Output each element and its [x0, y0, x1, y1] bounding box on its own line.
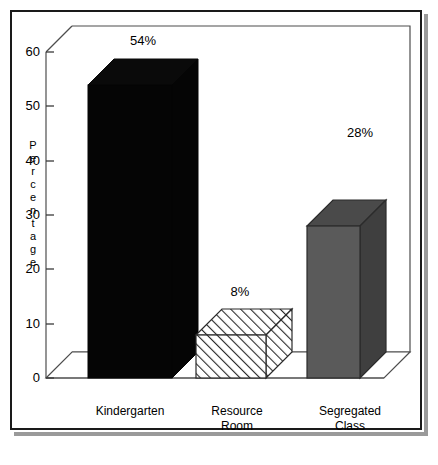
bar-kindergarten-front — [88, 85, 172, 378]
y-tick-label-10: 10 — [10, 316, 40, 331]
bar-resource-room-front — [196, 335, 266, 378]
bar-kindergarten-side — [172, 59, 198, 378]
category-label-line: Segregated — [292, 404, 408, 419]
y-axis-title-letter: e — [26, 256, 40, 269]
category-label-line: Resource — [182, 404, 292, 419]
category-label-segregated-class: Segregated Class — [292, 404, 408, 434]
bar-segregated-class-front — [307, 226, 360, 378]
y-axis-title-letter: r — [26, 165, 40, 178]
y-tick-label-0: 0 — [10, 370, 40, 385]
y-axis-title: P e r c e n t a g e — [26, 139, 40, 269]
category-label-line: Room — [182, 419, 292, 434]
data-label-resource-room: 8% — [215, 284, 265, 299]
y-axis-title-letter: n — [26, 204, 40, 217]
chart-screenshot: 60 50 40 30 20 10 0 P e r c e n t a g e … — [0, 0, 438, 465]
y-axis-title-letter: a — [26, 230, 40, 243]
data-label-kindergarten: 54% — [113, 33, 173, 48]
category-label-resource-room: Resource Room — [182, 404, 292, 434]
bar-chart-plot — [0, 0, 438, 465]
y-axis-title-letter: e — [26, 191, 40, 204]
bar-segregated-class[interactable] — [307, 200, 386, 378]
y-axis-title-letter: c — [26, 178, 40, 191]
y-axis-ticks — [46, 52, 54, 378]
y-axis-title-letter: g — [26, 243, 40, 256]
bar-segregated-class-side — [360, 200, 386, 378]
category-label-line: Class — [292, 419, 408, 434]
y-tick-label-60: 60 — [10, 44, 40, 59]
category-label-line: Kindergarten — [72, 404, 188, 419]
y-axis-title-letter: P — [26, 139, 40, 152]
y-axis-title-letter: t — [26, 217, 40, 230]
bar-kindergarten[interactable] — [88, 59, 198, 378]
data-label-segregated-class: 28% — [330, 125, 390, 140]
y-tick-label-50: 50 — [10, 98, 40, 113]
category-label-kindergarten: Kindergarten — [72, 404, 188, 419]
y-axis-title-letter: e — [26, 152, 40, 165]
